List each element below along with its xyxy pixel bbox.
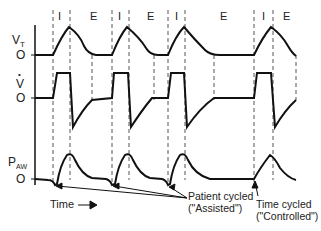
phase-label: I <box>175 10 178 22</box>
time-label: Time <box>50 198 74 210</box>
vt-label: VT <box>12 33 25 49</box>
flow-waveform <box>35 73 296 127</box>
airway-pressure-waveform <box>35 154 296 185</box>
time-cycled-line2: ("Controlled") <box>256 210 318 222</box>
phase-label: I <box>262 10 265 22</box>
flow-zero-label: O <box>16 91 25 105</box>
patient-cycled-annotation: Patient cycled ("Assisted") <box>188 190 253 214</box>
phase-label: I <box>118 10 121 22</box>
paw-subscript: AW <box>16 163 27 170</box>
paw-zero-label: O <box>16 172 25 186</box>
ventilator-waveform-diagram <box>0 0 321 231</box>
vt-zero-label: O <box>16 48 25 62</box>
time-cycled-line1: Time cycled <box>256 198 318 210</box>
patient-cycled-line1: Patient cycled <box>188 190 253 202</box>
phase-label: E <box>220 10 227 22</box>
phase-dividers <box>53 10 296 185</box>
patient-cycled-line2: ("Assisted") <box>188 202 253 214</box>
paw-letter: P <box>8 155 16 169</box>
phase-label: I <box>58 10 61 22</box>
flow-label: V <box>16 77 24 91</box>
time-cycled-annotation: Time cycled ("Controlled") <box>256 198 318 222</box>
paw-label: PAW <box>8 155 27 170</box>
phase-label: E <box>283 10 290 22</box>
vt-letter: V <box>12 33 20 47</box>
phase-label: E <box>147 10 154 22</box>
tidal-volume-waveform <box>35 27 296 56</box>
phase-label: E <box>90 10 97 22</box>
